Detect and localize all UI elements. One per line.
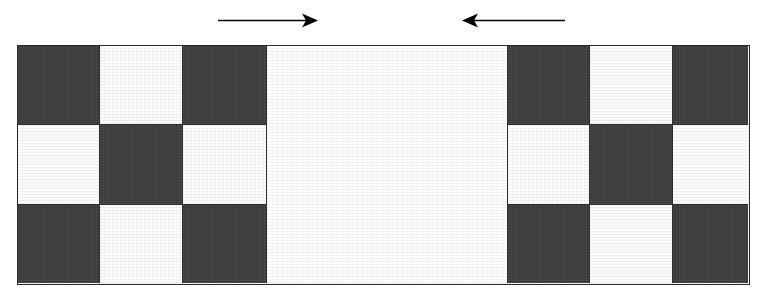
figure-root xyxy=(0,0,766,302)
checker-cell-r-r2-c1 xyxy=(508,125,590,205)
checker-cell-l-r1-c3 xyxy=(183,46,266,125)
load-arrow-left xyxy=(462,14,565,28)
specimen-panel xyxy=(17,45,750,285)
load-arrow-band xyxy=(0,0,766,44)
load-arrows-svg xyxy=(0,0,766,44)
checker-cell-r-r3-c1 xyxy=(508,205,590,283)
checker-cell-l-r3-c2 xyxy=(100,205,183,283)
checker-cell-r-r3-c3 xyxy=(673,205,748,283)
load-arrow-right xyxy=(218,14,318,28)
center-uniform-band xyxy=(266,46,508,283)
checker-cell-r-r2-c3 xyxy=(673,125,748,205)
checker-cell-r-r3-c2 xyxy=(590,205,673,283)
checker-cell-r-r1-c2 xyxy=(590,46,673,125)
checker-cell-l-r1-c2 xyxy=(100,46,183,125)
checker-cell-l-r2-c3 xyxy=(183,125,266,205)
checker-cell-l-r3-c3 xyxy=(183,205,266,283)
checker-cell-r-r1-c3 xyxy=(673,46,748,125)
checker-cell-l-r1-c1 xyxy=(18,46,100,125)
checker-cell-l-r2-c2 xyxy=(100,125,183,205)
checker-cell-r-r1-c1 xyxy=(508,46,590,125)
checker-cell-l-r3-c1 xyxy=(18,205,100,283)
checker-cell-l-r2-c1 xyxy=(18,125,100,205)
checker-cell-r-r2-c2 xyxy=(590,125,673,205)
